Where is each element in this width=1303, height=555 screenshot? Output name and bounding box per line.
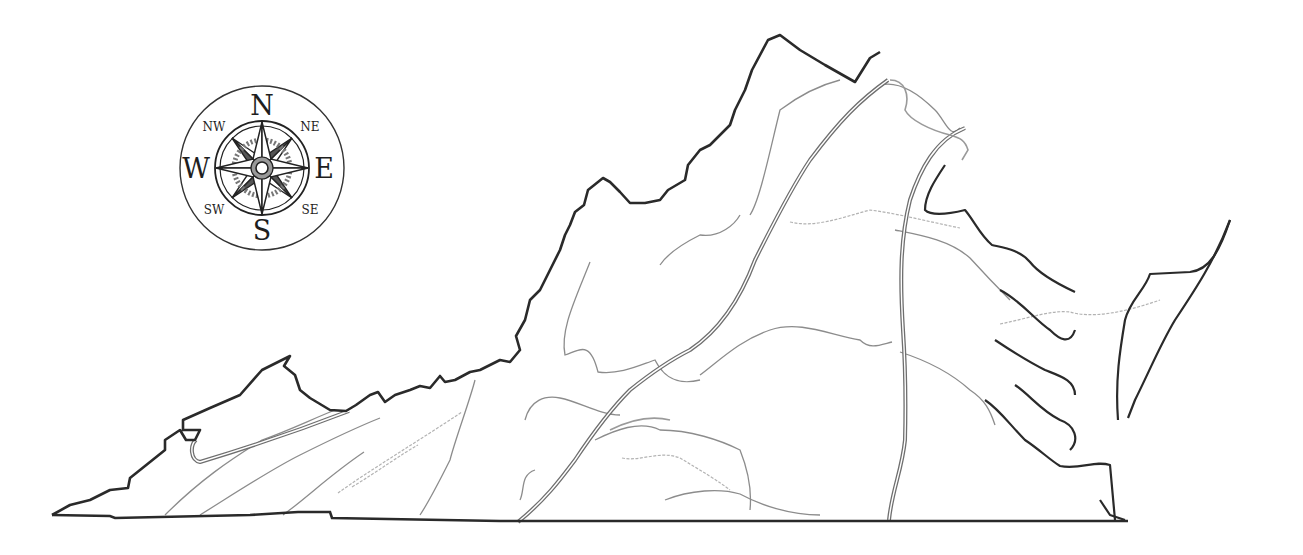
virginia-map: N S W E NW NE SW SE bbox=[0, 0, 1303, 555]
compass-label-east: E bbox=[314, 153, 334, 184]
compass-label-northeast: NE bbox=[300, 120, 319, 134]
compass-hub-center bbox=[256, 162, 268, 174]
compass-label-south: S bbox=[253, 215, 272, 246]
compass-label-north: N bbox=[250, 90, 274, 121]
compass-label-west: W bbox=[182, 153, 210, 184]
map-background bbox=[0, 0, 1303, 555]
compass-label-southeast: SE bbox=[302, 203, 319, 217]
compass-label-northwest: NW bbox=[203, 120, 227, 134]
compass-label-southwest: SW bbox=[204, 203, 225, 217]
